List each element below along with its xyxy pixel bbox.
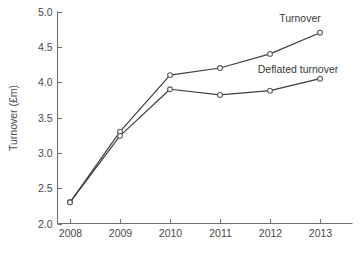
y-tick-label: 5.0 — [38, 6, 53, 18]
data-point-marker — [318, 30, 323, 35]
line-chart: 2.02.53.03.54.04.55.0 200820092010201120… — [0, 0, 362, 257]
y-axis-title: Turnover (£m) — [7, 85, 19, 151]
y-tick-label: 3.0 — [38, 147, 53, 159]
data-point-marker — [118, 133, 123, 138]
series-line — [70, 33, 320, 203]
series-2 — [68, 76, 323, 204]
data-point-marker — [268, 88, 273, 93]
series-1 — [68, 30, 323, 204]
y-axis-tick-labels: 2.02.53.03.54.04.55.0 — [38, 6, 53, 230]
data-point-marker — [318, 76, 323, 81]
x-axis: 200820092010201120122013 — [58, 219, 353, 239]
y-tick-label: 4.5 — [38, 41, 53, 53]
series-annotations: TurnoverDeflated turnover — [258, 12, 339, 75]
y-tick-label: 4.0 — [38, 76, 53, 88]
x-tick-label: 2010 — [159, 227, 183, 239]
y-tick-label: 2.5 — [38, 182, 53, 194]
data-point-marker — [268, 52, 273, 57]
data-point-marker — [168, 73, 173, 78]
x-tick-label: 2013 — [309, 227, 333, 239]
y-axis: 2.02.53.03.54.04.55.0 — [38, 6, 62, 230]
series-layer — [68, 30, 323, 204]
series-annotation-1: Turnover — [279, 12, 321, 24]
x-axis-ticks — [71, 219, 321, 224]
y-tick-label: 3.5 — [38, 112, 53, 124]
y-tick-label: 2.0 — [38, 218, 53, 230]
x-tick-label: 2012 — [259, 227, 283, 239]
x-tick-label: 2011 — [209, 227, 232, 239]
data-point-marker — [218, 66, 223, 71]
y-axis-ticks — [58, 13, 63, 225]
data-point-marker — [68, 200, 73, 205]
series-line — [70, 79, 320, 203]
x-axis-tick-labels: 200820092010201120122013 — [59, 227, 333, 239]
x-tick-label: 2009 — [109, 227, 133, 239]
series-annotation-2: Deflated turnover — [258, 63, 339, 75]
chart-canvas: 2.02.53.03.54.04.55.0 200820092010201120… — [0, 0, 362, 257]
x-tick-label: 2008 — [59, 227, 83, 239]
data-point-marker — [218, 92, 223, 97]
data-point-marker — [168, 87, 173, 92]
